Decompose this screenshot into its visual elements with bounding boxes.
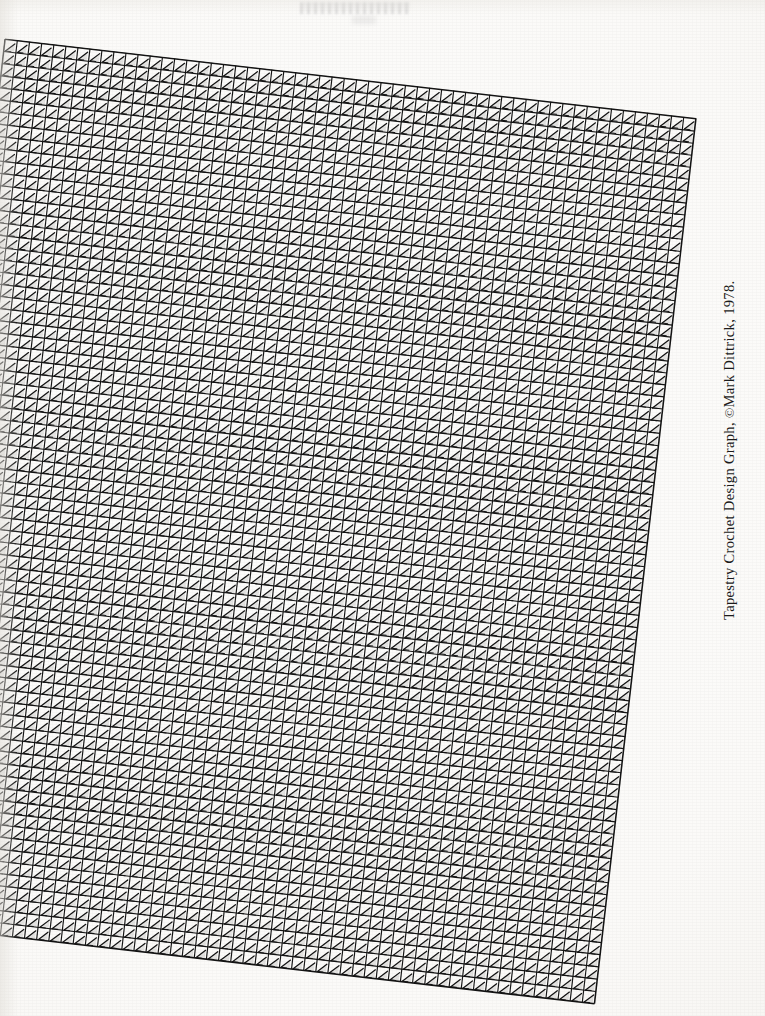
copyright-icon: © [722,407,737,418]
design-graph-grid-svg [0,38,699,1007]
figure-caption: Tapestry Crochet Design Graph, ©Mark Dit… [712,240,746,620]
scan-smudge-artifact-secondary [352,16,376,24]
scan-smudge-artifact [300,2,410,14]
caption-prefix: Tapestry Crochet Design Graph, [721,418,737,620]
caption-credit: Mark Dittrick, 1978. [721,280,737,407]
design-graph-grid [0,38,699,1008]
scanned-page: Tapestry Crochet Design Graph, ©Mark Dit… [0,0,765,1016]
